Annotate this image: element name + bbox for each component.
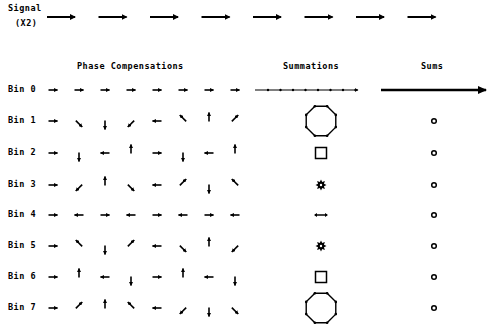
summation-square	[316, 272, 327, 283]
dft-diagram	[0, 0, 492, 333]
sum-small-circle	[432, 306, 437, 311]
bin-row	[49, 177, 437, 194]
sum-small-circle	[432, 244, 437, 249]
bin-row	[49, 238, 437, 255]
bin-row	[49, 89, 487, 91]
sum-small-circle	[432, 151, 437, 156]
summation-star	[316, 241, 327, 252]
phasor-arrow	[232, 115, 238, 121]
phasor-arrow	[180, 179, 186, 185]
summation-back-and-forth	[314, 213, 328, 217]
bin-row	[49, 292, 437, 324]
phasor-arrow	[128, 121, 134, 127]
summation-star	[316, 180, 327, 191]
bin-rows	[49, 89, 487, 324]
summation-straight-line	[255, 89, 358, 91]
phasor-arrow	[128, 302, 134, 308]
phasor-arrow	[76, 240, 82, 246]
phasor-arrow	[232, 308, 238, 314]
phasor-arrow	[232, 246, 238, 252]
phasor-arrow	[128, 185, 134, 191]
summation-octagon	[305, 105, 337, 137]
summation-octagon	[305, 292, 337, 324]
sum-small-circle	[432, 275, 437, 280]
phasor-arrow	[232, 179, 238, 185]
phasor-arrow	[128, 240, 134, 246]
phasor-arrow	[180, 308, 186, 314]
summation-square	[316, 148, 327, 159]
bin-row	[49, 105, 437, 137]
bin-row	[49, 269, 437, 286]
sum-small-circle	[432, 213, 437, 218]
phasor-arrow	[76, 121, 82, 127]
phasor-arrow	[76, 302, 82, 308]
phasor-arrow	[76, 185, 82, 191]
sum-small-circle	[432, 183, 437, 188]
phasor-arrow	[180, 246, 186, 252]
bin-row	[49, 213, 437, 218]
phasor-arrow	[180, 115, 186, 121]
bin-row	[49, 145, 437, 162]
sum-small-circle	[432, 119, 437, 124]
